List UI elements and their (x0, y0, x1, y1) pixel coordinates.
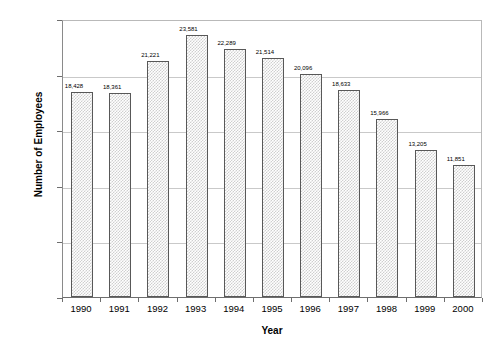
bar-value-label: 18,361 (91, 83, 133, 91)
bar-value-label: 18,633 (320, 80, 362, 88)
plot-area: 18,42818,36121,22123,58122,28921,51420,0… (62, 20, 482, 298)
bar-group: 22,289 (216, 21, 254, 297)
x-axis-tick-mark (367, 298, 368, 302)
x-axis-tick-mark (482, 298, 483, 302)
bar-group: 18,633 (330, 21, 368, 297)
x-axis-tick-mark (62, 298, 63, 302)
x-axis-tick-label: 2000 (444, 303, 482, 314)
bar[interactable] (262, 58, 284, 297)
x-axis-tick-label: 1995 (253, 303, 291, 314)
x-axis-tick-mark (215, 298, 216, 302)
bar-group: 18,361 (101, 21, 139, 297)
y-axis-title: Number of Employees (33, 45, 44, 245)
x-axis-tick-label: 1991 (100, 303, 138, 314)
x-axis-tick-label: 1996 (291, 303, 329, 314)
bar-group: 18,428 (63, 21, 101, 297)
bar[interactable] (71, 92, 93, 297)
bar-value-label: 23,581 (168, 25, 210, 33)
bar[interactable] (453, 165, 475, 297)
x-axis-tick-mark (291, 298, 292, 302)
x-axis-tick-label: 1998 (367, 303, 405, 314)
bar-group: 11,851 (445, 21, 483, 297)
bar-group: 23,581 (178, 21, 216, 297)
bar[interactable] (338, 90, 360, 297)
bar[interactable] (109, 93, 131, 297)
bar-value-label: 22,289 (206, 39, 248, 47)
x-axis-tick-mark (100, 298, 101, 302)
x-axis-title: Year (62, 325, 482, 336)
bar-group: 15,966 (368, 21, 406, 297)
bar-value-label: 20,096 (282, 64, 324, 72)
x-axis-tick-mark (138, 298, 139, 302)
bar[interactable] (300, 74, 322, 297)
x-axis-tick-mark (329, 298, 330, 302)
bar-group: 20,096 (292, 21, 330, 297)
bar-value-label: 13,205 (397, 140, 439, 148)
bar[interactable] (186, 35, 208, 297)
bar[interactable] (147, 61, 169, 297)
bar[interactable] (376, 119, 398, 297)
bar-value-label: 11,851 (435, 155, 477, 163)
x-axis-tick-label: 1994 (215, 303, 253, 314)
x-axis-tick-label: 1990 (62, 303, 100, 314)
x-axis-tick-mark (406, 298, 407, 302)
bar-value-label: 21,514 (244, 48, 286, 56)
bar-chart: Number of Employees 05,00010,00015,00020… (0, 0, 491, 345)
bar-group: 21,221 (139, 21, 177, 297)
bar[interactable] (224, 49, 246, 297)
bar-value-label: 18,428 (53, 82, 95, 90)
bar-value-label: 15,966 (358, 109, 400, 117)
x-axis-tick-label: 1997 (329, 303, 367, 314)
x-axis-tick-mark (177, 298, 178, 302)
bar[interactable] (415, 150, 437, 297)
x-axis-tick-label: 1992 (138, 303, 176, 314)
x-axis-tick-mark (253, 298, 254, 302)
x-axis-tick-label: 1993 (177, 303, 215, 314)
x-axis-tick-label: 1999 (406, 303, 444, 314)
bar-group: 21,514 (254, 21, 292, 297)
bar-value-label: 21,221 (129, 51, 171, 59)
x-axis-tick-mark (444, 298, 445, 302)
